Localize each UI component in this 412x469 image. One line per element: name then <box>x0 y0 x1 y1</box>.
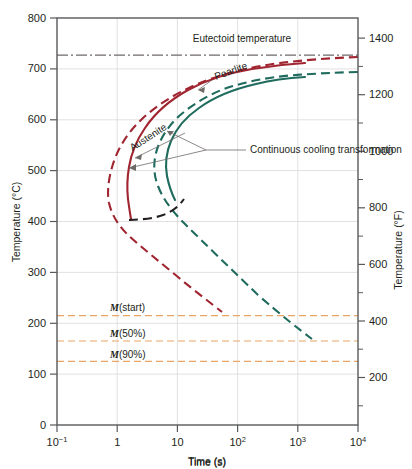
y-right-tick-600: 600 <box>369 258 387 270</box>
y-left-tick-600: 600 <box>28 113 46 125</box>
x-axis-title-label: Time (s) <box>188 455 226 467</box>
y-left-tick-300: 300 <box>28 266 46 278</box>
y-left-tick-700: 700 <box>28 62 46 74</box>
figure-background <box>0 0 412 469</box>
y-right-tick-400: 400 <box>369 315 387 327</box>
y-right-tick-1400: 1400 <box>369 32 393 44</box>
x-axis-tick-1e4: 104 <box>350 435 366 448</box>
y-right-tick-800: 800 <box>369 201 387 213</box>
x-axis-tick-1e-1: 10−1 <box>47 435 68 448</box>
y-left-tick-200: 200 <box>28 317 46 329</box>
y-left-tick-800: 800 <box>28 12 46 24</box>
chart-canvas: 0 100 200 300 400 500 600 700 800 200 40… <box>0 0 412 469</box>
y-left-tick-0: 0 <box>40 419 46 431</box>
x-axis-tick-1e2: 102 <box>229 435 245 448</box>
y-left-tick-100: 100 <box>28 368 46 380</box>
x-axis-tick-10: 10 <box>171 436 183 448</box>
y-right-tick-200: 200 <box>369 371 387 383</box>
y-right-tick-1000: 1000 <box>369 145 393 157</box>
y-left-tick-400: 400 <box>28 215 46 227</box>
y-axis-left-labels: 0 100 200 300 400 500 600 700 800 <box>28 12 46 431</box>
x-axis-tick-1e3: 103 <box>290 435 306 448</box>
x-axis-labels-final-layer: 10−1 1 10 102 103 104 Time (s) <box>0 430 412 468</box>
y-right-tick-1200: 1200 <box>369 88 393 100</box>
cct-diagram-figure: 0 100 200 300 400 500 600 700 800 200 40… <box>0 0 412 469</box>
y-left-tick-500: 500 <box>28 164 46 176</box>
x-axis-tick-1: 1 <box>114 436 120 448</box>
